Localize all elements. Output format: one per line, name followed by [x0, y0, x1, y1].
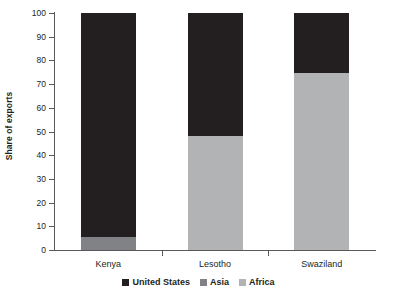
legend-swatch-icon — [122, 279, 129, 286]
legend-label: United States — [132, 278, 190, 287]
bar-segment[interactable] — [81, 237, 136, 250]
y-axis-tick-label: 70 — [6, 80, 46, 89]
y-axis-tick-label: 80 — [6, 56, 46, 65]
y-axis-tick-label: 30 — [6, 175, 46, 184]
plot-area — [55, 13, 375, 250]
bar-group[interactable] — [188, 13, 243, 250]
bar-segment[interactable] — [188, 13, 243, 136]
y-axis-tick-label: 40 — [6, 151, 46, 160]
y-axis-tick — [49, 132, 54, 133]
y-axis-tick — [49, 203, 54, 204]
y-axis-tick-label: 90 — [6, 33, 46, 42]
y-axis-tick-label: 100 — [6, 9, 46, 18]
legend-item[interactable]: Asia — [200, 278, 229, 287]
legend-label: Africa — [249, 278, 275, 287]
y-axis-tick-label: 50 — [6, 128, 46, 137]
y-axis-tick — [49, 155, 54, 156]
y-axis-tick — [49, 37, 54, 38]
y-axis-tick — [49, 13, 54, 14]
bar-segment[interactable] — [81, 13, 136, 237]
x-axis-tick — [268, 251, 269, 256]
y-axis-tick — [49, 60, 54, 61]
y-axis-tick — [49, 179, 54, 180]
y-axis-tick-label: 20 — [6, 199, 46, 208]
chart-legend: United StatesAsiaAfrica — [0, 278, 397, 287]
bar-segment[interactable] — [188, 136, 243, 250]
bar-segment[interactable] — [294, 73, 349, 250]
x-axis-category-label: Kenya — [55, 259, 162, 269]
bar-group[interactable] — [81, 13, 136, 250]
y-axis-tick-label: 10 — [6, 222, 46, 231]
x-axis-tick — [162, 251, 163, 256]
bar-group[interactable] — [294, 13, 349, 250]
legend-swatch-icon — [239, 279, 246, 286]
legend-label: Asia — [210, 278, 229, 287]
y-axis-title-label: Share of exports — [4, 92, 14, 161]
legend-item[interactable]: Africa — [239, 278, 275, 287]
bar-segment[interactable] — [294, 13, 349, 73]
y-axis-tick — [49, 84, 54, 85]
x-axis-line — [54, 250, 376, 251]
y-axis-tick — [49, 226, 54, 227]
y-axis-tick — [49, 250, 54, 251]
y-axis-tick-label: 0 — [6, 246, 46, 255]
x-axis-category-label: Swaziland — [268, 259, 375, 269]
legend-item[interactable]: United States — [122, 278, 190, 287]
y-axis-tick — [49, 108, 54, 109]
x-axis-category-label: Lesotho — [162, 259, 269, 269]
y-axis-tick-label: 60 — [6, 104, 46, 113]
stacked-bar-chart: Share of exports 0102030405060708090100 … — [0, 0, 397, 302]
legend-swatch-icon — [200, 279, 207, 286]
